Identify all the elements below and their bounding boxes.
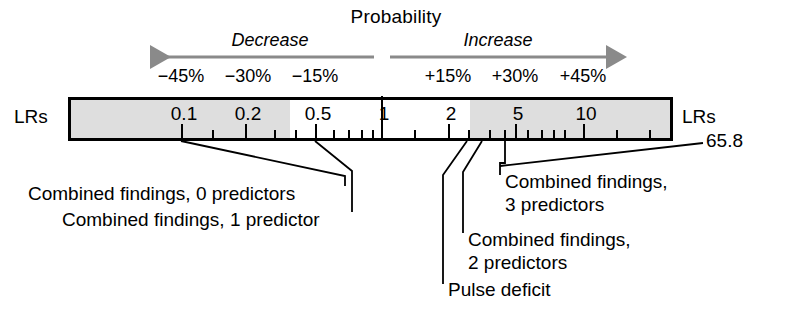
tick-10 [583, 124, 585, 138]
tick-minor [361, 130, 363, 138]
tick-minor [649, 130, 651, 138]
tick-0p2 [245, 124, 247, 138]
page-title: Probability [0, 6, 792, 28]
direction-label-decrease: Decrease [180, 30, 360, 51]
bar-value-5: 5 [490, 103, 546, 125]
pct-label-minus30: −30% [211, 66, 285, 87]
direction-label-increase: Increase [408, 30, 588, 51]
bar-value-2: 2 [423, 103, 479, 125]
callout-2-predictors: Combined findings, 2 predictors [468, 228, 631, 274]
direction-arrows [0, 0, 792, 316]
max-value-label: 65.8 [706, 130, 743, 152]
tick-minor [527, 130, 529, 138]
axis-label-lrs-right: LRs [682, 106, 716, 128]
tick-minor [468, 130, 470, 138]
tick-minor [616, 130, 618, 138]
leader-line-1-predictor [315, 141, 352, 212]
pct-label-minus15: −15% [278, 66, 352, 87]
pct-label-plus15: +15% [411, 66, 485, 87]
likelihood-ratio-nomogram: Probability Decrease Increase −45% −30% … [0, 0, 792, 316]
leader-line-pulse-deficit [443, 141, 467, 284]
pct-label-plus45: +45% [546, 66, 620, 87]
bar-value-1: 1 [356, 103, 412, 125]
tick-minor [212, 130, 214, 138]
callout-1-predictor: Combined findings, 1 predictor [62, 208, 320, 231]
tick-minor [541, 130, 543, 138]
tick-minor [489, 130, 491, 138]
tick-minor [348, 130, 350, 138]
callout-pulse-deficit: Pulse deficit [448, 278, 550, 301]
callout-0-predictors: Combined findings, 0 predictors [28, 182, 295, 205]
tick-5 [515, 124, 517, 138]
bar-value-10: 10 [558, 103, 614, 125]
callout-leader-lines [0, 0, 792, 316]
leader-line-0-predictors [181, 141, 345, 186]
tick-minor [274, 130, 276, 138]
lr-scale-bar[interactable]: 0.1 0.2 0.5 1 2 5 10 [68, 97, 673, 141]
tick-0p5 [315, 124, 317, 138]
bar-value-0p2: 0.2 [220, 103, 276, 125]
tick-minor [372, 130, 374, 138]
tick-minor [295, 130, 297, 138]
axis-label-lrs-left: LRs [14, 106, 48, 128]
bar-value-0p5: 0.5 [290, 103, 346, 125]
tick-minor [333, 130, 335, 138]
pct-label-plus30: +30% [478, 66, 552, 87]
tick-2 [448, 124, 450, 138]
leader-line-2-predictors [463, 141, 482, 233]
tick-minor [414, 130, 416, 138]
tick-0p1 [181, 124, 183, 138]
bar-value-0p1: 0.1 [156, 103, 212, 125]
leader-line-65p8 [500, 143, 703, 166]
callout-3-predictors: Combined findings, 3 predictors [505, 170, 668, 216]
tick-minor [553, 130, 555, 138]
tick-minor [504, 130, 506, 138]
tick-minor [564, 130, 566, 138]
pct-label-minus45: −45% [144, 66, 218, 87]
